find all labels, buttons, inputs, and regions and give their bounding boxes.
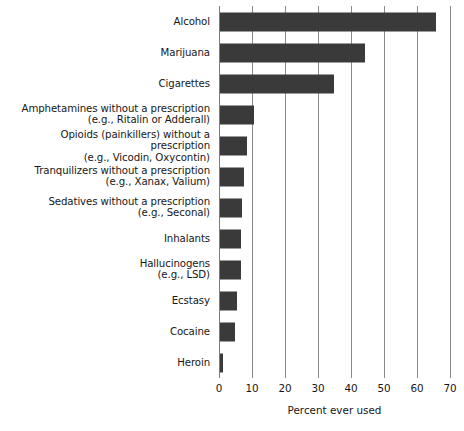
x-tick-label-50: 50	[377, 382, 390, 394]
category-label: Tranquilizers without a prescription (e.…	[35, 165, 210, 188]
x-tick-label-0: 0	[216, 382, 223, 394]
category-label: Marijuana	[161, 47, 210, 59]
x-axis-title: Percent ever used	[219, 404, 450, 416]
category-label: Cocaine	[170, 326, 210, 338]
category-label: Heroin	[177, 357, 210, 369]
category-label: Ecstasy	[172, 295, 210, 307]
x-tick-label-70: 70	[443, 382, 456, 394]
x-tick-label-20: 20	[278, 382, 291, 394]
gridline-60	[417, 6, 418, 378]
bar	[220, 353, 223, 372]
category-label: Alcohol	[174, 16, 210, 28]
category-label: Inhalants	[164, 233, 210, 245]
bar	[220, 136, 247, 155]
x-tick-label-10: 10	[245, 382, 258, 394]
bar	[220, 74, 334, 93]
bar	[220, 167, 244, 186]
category-label: Amphetamines without a prescription (e.g…	[22, 103, 210, 126]
x-axis: 010203040506070	[219, 378, 450, 398]
bar	[220, 43, 365, 62]
bar	[220, 260, 241, 279]
bar	[220, 229, 241, 248]
x-tick-label-60: 60	[410, 382, 423, 394]
category-label: Cigarettes	[159, 78, 210, 90]
bar	[220, 12, 436, 31]
bar	[220, 105, 254, 124]
gridline-70	[450, 6, 451, 378]
category-label: Sedatives without a prescription (e.g., …	[48, 196, 210, 219]
plot-area	[219, 6, 450, 378]
x-tick-label-30: 30	[311, 382, 324, 394]
bar	[220, 198, 242, 217]
gridline-50	[384, 6, 385, 378]
bar	[220, 291, 237, 310]
bar-chart: AlcoholMarijuanaCigarettesAmphetamines w…	[0, 0, 464, 431]
category-label-column: AlcoholMarijuanaCigarettesAmphetamines w…	[0, 0, 215, 378]
x-tick-label-40: 40	[344, 382, 357, 394]
category-label: Hallucinogens (e.g., LSD)	[140, 258, 210, 281]
category-label: Opioids (painkillers) without a prescrip…	[0, 128, 210, 163]
bar	[220, 322, 235, 341]
